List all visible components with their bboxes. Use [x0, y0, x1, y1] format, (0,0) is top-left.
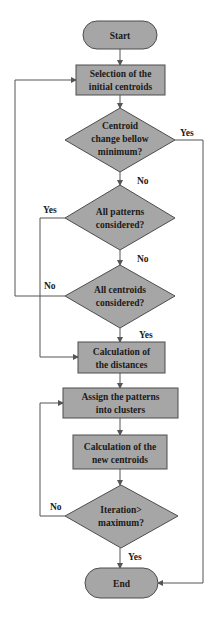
assign-patterns-line1: Assign the patterns	[81, 392, 159, 402]
end-node: End	[85, 568, 158, 598]
calc-new-centroids-line1: Calculation of the	[84, 442, 156, 452]
iteration-no-label: No	[50, 502, 62, 512]
all-patterns-line1: All patterns	[96, 207, 145, 217]
start-label: Start	[110, 31, 131, 41]
calc-new-centroids-line2: new centroids	[92, 455, 148, 465]
all-centroids-decision: All centroids considered?	[65, 265, 175, 328]
centroid-change-decision: Centroid change bellow minimum?	[65, 108, 175, 172]
assign-patterns-node: Assign the patterns into clusters	[63, 388, 178, 418]
all-centroids-line1: All centroids	[94, 285, 146, 295]
select-centroids-line2: initial centroids	[89, 82, 153, 92]
all-patterns-line2: considered?	[96, 220, 145, 230]
calc-distances-node: Calculation of the distances	[78, 342, 165, 373]
all-centroids-no-label: No	[44, 281, 56, 291]
select-centroids-line1: Selection of the	[90, 69, 152, 79]
iteration-max-decision: Iteration> maximum?	[65, 485, 178, 548]
calc-distances-line2: the distances	[96, 360, 148, 370]
centroid-change-line1: Centroid	[102, 121, 139, 131]
all-patterns-no-label: No	[137, 254, 149, 264]
all-centroids-yes-label: Yes	[139, 330, 153, 340]
select-centroids-node: Selection of the initial centroids	[76, 65, 165, 95]
iteration-max-line1: Iteration>	[100, 505, 141, 515]
centroid-change-yes-label: Yes	[180, 128, 194, 138]
centroid-change-line3: minimum?	[98, 147, 143, 157]
centroid-change-no-label: No	[137, 176, 149, 186]
all-centroids-line2: considered?	[96, 298, 145, 308]
all-patterns-yes-label: Yes	[43, 205, 57, 215]
calc-new-centroids-node: Calculation of the new centroids	[73, 435, 167, 469]
calc-distances-line1: Calculation of	[93, 347, 151, 357]
iteration-yes-label: Yes	[128, 552, 142, 562]
all-patterns-decision: All patterns considered?	[65, 185, 175, 250]
iteration-max-line2: maximum?	[98, 518, 144, 528]
flowchart-canvas: Start Selection of the initial centroids…	[0, 0, 216, 619]
assign-patterns-line2: into clusters	[96, 405, 146, 415]
start-node: Start	[83, 21, 157, 49]
end-label: End	[113, 579, 131, 589]
arrow-iteration-no	[40, 403, 65, 516]
arrow-all-centroids-no	[15, 80, 76, 296]
centroid-change-line2: change bellow	[91, 134, 148, 144]
